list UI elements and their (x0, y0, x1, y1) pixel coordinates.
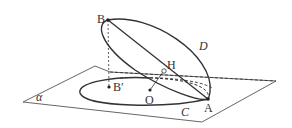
label-c: C (181, 105, 190, 119)
label-o: O (145, 93, 154, 107)
point-o (148, 88, 151, 91)
label-b-prime: B′ (113, 80, 124, 94)
label-a: A (204, 101, 213, 115)
label-d: D (198, 39, 208, 53)
ellipse-c (80, 78, 208, 106)
label-h: H (167, 58, 176, 72)
point-b (106, 18, 110, 22)
right-angle-mark-h (162, 69, 166, 73)
label-alpha: α (36, 90, 43, 104)
segment-bb-prime (108, 20, 109, 87)
plane-edge-hidden (95, 66, 110, 72)
label-b: B (97, 12, 105, 26)
ellipse-c-hidden (150, 78, 208, 99)
point-b-prime (107, 85, 110, 88)
geometry-diagram: B A H O B′ D C α (0, 0, 292, 128)
